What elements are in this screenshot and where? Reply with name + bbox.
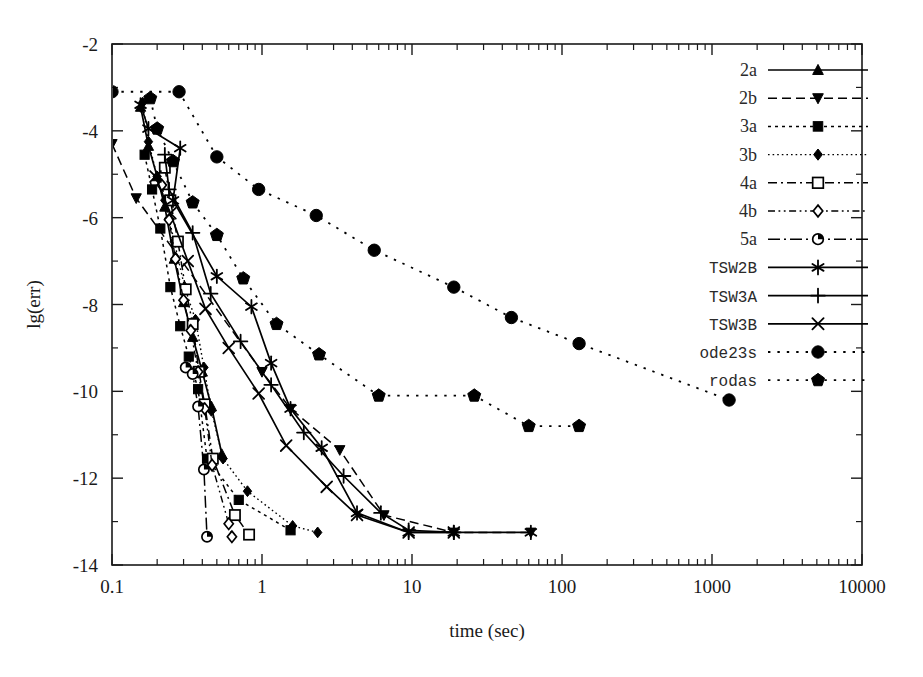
legend-label: 3b xyxy=(739,145,757,165)
marker-cross xyxy=(281,440,292,451)
marker-circle xyxy=(173,86,185,98)
legend-entry-5a[interactable]: 5a xyxy=(740,229,868,249)
marker-pentagon xyxy=(210,228,223,240)
x-tick-label: 0.1 xyxy=(100,576,124,597)
marker-pentagon xyxy=(812,373,825,385)
marker-circle xyxy=(252,183,264,195)
legend-entry-3a[interactable]: 3a xyxy=(740,116,868,136)
marker-circle xyxy=(723,394,735,406)
x-tick-label: 10 xyxy=(403,576,422,597)
figure-container: 0.1110100100010000 -2-4-6-8-10-12-14 tim… xyxy=(0,0,923,677)
marker-asterisk xyxy=(246,300,257,314)
series-line xyxy=(150,98,579,426)
legend-label: 4b xyxy=(739,201,757,221)
marker-asterisk xyxy=(175,141,186,155)
legend-label: 3a xyxy=(740,116,757,136)
marker-cross xyxy=(321,481,332,492)
marker-cross xyxy=(182,256,193,267)
marker-plus xyxy=(204,287,218,301)
y-tick-label: -6 xyxy=(82,208,98,229)
marker-plus xyxy=(186,226,200,240)
marker-triangle-down xyxy=(335,446,345,456)
legend-entry-2a[interactable]: 2a xyxy=(740,60,868,80)
marker-circle-open xyxy=(193,401,203,411)
series-TSW3B xyxy=(150,171,459,538)
marker-pentagon xyxy=(522,419,535,431)
marker-pentagon xyxy=(468,389,481,401)
marker-circle-open xyxy=(813,234,824,245)
legend-entry-rodas[interactable]: rodas xyxy=(709,373,868,391)
legend-entry-TSW2B[interactable]: TSW2B xyxy=(709,260,868,278)
data-series xyxy=(106,86,735,543)
legend-label: rodas xyxy=(709,373,757,391)
legend-entry-3b[interactable]: 3b xyxy=(739,145,868,165)
marker-diamond-open xyxy=(227,531,236,542)
legend-label: 4a xyxy=(740,173,757,193)
marker-square-open xyxy=(244,529,254,539)
x-tick-label: 1000 xyxy=(693,576,731,597)
x-tick-label: 10000 xyxy=(838,576,886,597)
marker-diamond xyxy=(313,527,321,538)
marker-pentagon xyxy=(144,91,157,103)
marker-plus xyxy=(811,289,825,303)
legend-entry-4b[interactable]: 4b xyxy=(739,201,868,221)
marker-pentagon xyxy=(372,389,385,401)
marker-square xyxy=(176,322,185,331)
legend-label: 5a xyxy=(740,229,757,249)
legend-label: TSW3A xyxy=(709,289,757,307)
marker-cross xyxy=(253,388,264,399)
marker-square xyxy=(166,283,175,292)
marker-asterisk xyxy=(211,270,222,284)
legend-label: ode23s xyxy=(699,345,757,363)
y-tick-label: -2 xyxy=(82,34,98,55)
marker-pentagon xyxy=(151,122,164,134)
legend-label: TSW2B xyxy=(709,260,757,278)
x-axis-title: time (sec) xyxy=(449,620,524,642)
marker-circle xyxy=(448,281,460,293)
legend-entry-TSW3B[interactable]: TSW3B xyxy=(709,317,868,335)
series-TSW3A xyxy=(158,148,460,539)
series-line xyxy=(112,92,729,400)
x-axis-ticks: 0.1110100100010000 xyxy=(100,44,886,597)
legend-entry-TSW3A[interactable]: TSW3A xyxy=(709,289,868,307)
marker-square xyxy=(147,185,156,194)
legend: 2a2b3a3b4a4b5aTSW2BTSW3ATSW3Bode23srodas xyxy=(699,60,868,391)
legend-label: 2b xyxy=(739,88,757,108)
marker-circle xyxy=(573,337,585,349)
marker-cross xyxy=(200,303,211,314)
series-line xyxy=(156,176,454,532)
marker-square-open xyxy=(813,177,824,188)
legend-entry-2b[interactable]: 2b xyxy=(739,88,868,108)
marker-square xyxy=(813,122,823,132)
y-tick-label: -12 xyxy=(73,468,98,489)
marker-diamond xyxy=(814,149,823,160)
marker-pentagon xyxy=(573,419,586,431)
marker-circle xyxy=(812,346,824,358)
legend-label: 2a xyxy=(740,60,757,80)
series-line xyxy=(165,155,454,533)
marker-circle xyxy=(310,209,322,221)
y-tick-label: -8 xyxy=(82,295,98,316)
scatter-line-plot: 0.1110100100010000 -2-4-6-8-10-12-14 tim… xyxy=(0,0,923,677)
legend-entry-4a[interactable]: 4a xyxy=(740,173,868,193)
marker-pentagon xyxy=(313,348,326,360)
series-line xyxy=(186,367,207,536)
marker-circle-open xyxy=(188,369,198,379)
series-line xyxy=(165,168,249,535)
marker-circle xyxy=(505,311,517,323)
marker-square xyxy=(184,352,193,361)
y-tick-label: -14 xyxy=(73,555,99,576)
x-tick-label: 100 xyxy=(548,576,577,597)
marker-square-open xyxy=(230,510,240,520)
legend-entry-ode23s[interactable]: ode23s xyxy=(699,345,868,363)
marker-circle xyxy=(368,244,380,256)
marker-pentagon xyxy=(166,154,179,166)
marker-circle-open xyxy=(202,532,212,542)
marker-pentagon xyxy=(186,196,199,208)
marker-circle xyxy=(211,151,223,163)
series-rodas xyxy=(144,91,586,431)
legend-label: TSW3B xyxy=(709,317,757,335)
marker-pentagon xyxy=(237,272,250,284)
marker-square xyxy=(140,150,149,159)
marker-circle-open xyxy=(199,464,209,474)
